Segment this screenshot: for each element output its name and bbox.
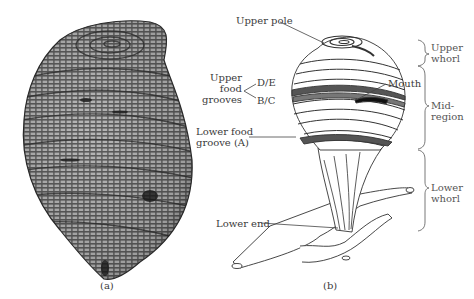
region-mid-line1: Mid- (431, 100, 464, 111)
label-upper-food-grooves-line3: grooves (198, 94, 242, 105)
region-braces (418, 40, 429, 231)
label-bc: B/C (257, 95, 275, 106)
label-lower-food-groove-line1: Lower food (196, 126, 248, 137)
label-upper-pole: Upper pole (236, 15, 293, 26)
caption-a: (a) (100, 280, 114, 291)
region-upper-whorl: Upper whorl (431, 42, 463, 64)
caption-b: (b) (323, 280, 337, 291)
label-lower-food-groove: Lower food groove (A) (196, 126, 248, 148)
region-lower-whorl-line2: whorl (431, 193, 463, 204)
region-upper-whorl-line1: Upper (431, 42, 463, 53)
organism-diagram (232, 36, 414, 269)
region-mid-line2: region (431, 111, 464, 122)
label-upper-food-grooves-line1: Upper (198, 72, 242, 83)
label-lower-food-groove-line2: groove (A) (196, 137, 248, 148)
figure-canvas (0, 0, 474, 299)
region-lower-whorl: Lower whorl (431, 182, 463, 204)
organism-photo (0, 0, 200, 290)
leader-food-grooves (244, 84, 256, 98)
region-lower-whorl-line1: Lower (431, 182, 463, 193)
brace-upper-whorl (418, 40, 429, 66)
label-lower-end: Lower end (216, 218, 270, 229)
label-de: D/E (257, 77, 276, 88)
label-upper-food-grooves: Upper food grooves (198, 72, 242, 105)
region-mid: Mid- region (431, 100, 464, 122)
label-upper-food-grooves-line2: food (198, 83, 242, 94)
label-mouth: Mouth (388, 78, 421, 89)
region-upper-whorl-line2: whorl (431, 53, 463, 64)
brace-lower-whorl (418, 150, 429, 231)
